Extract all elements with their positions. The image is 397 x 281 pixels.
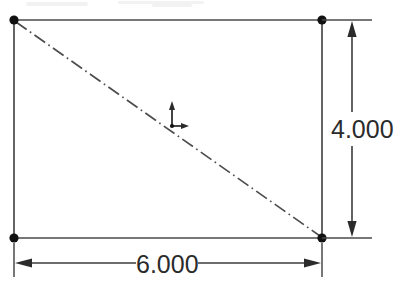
vertical-dimension-label[interactable]: 4.000 [331,115,394,143]
horizontal-dimension-label[interactable]: 6.000 [136,250,199,278]
origin-point [170,124,174,128]
vertical-dimension[interactable]: 4.000 [330,21,394,237]
sketch-point-icon-bottom-left[interactable] [9,233,18,242]
diagonal-centerline[interactable] [16,22,320,236]
arrow-down-icon [347,221,356,237]
arrow-left-icon [15,258,32,267]
horizontal-dimension[interactable]: 6.000 [15,250,321,278]
origin-y-arrowhead [169,101,175,110]
scan-artifacts [26,1,204,7]
arrow-up-icon [347,21,356,37]
origin-x-arrowhead [181,123,189,129]
cad-drawing-canvas[interactable]: 4.000 6.000 [0,0,397,281]
origin-axes-icon[interactable] [169,101,189,129]
drawing-surface[interactable]: 4.000 6.000 [0,0,397,281]
arrow-right-icon [304,258,321,267]
sketch-point-icon-top-left[interactable] [9,15,18,24]
